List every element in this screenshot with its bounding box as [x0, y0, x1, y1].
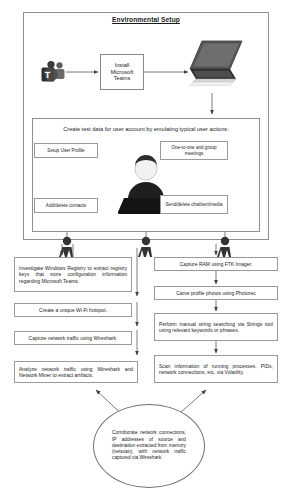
laptop-icon [186, 38, 246, 93]
step-box-capture-ram: Capture RAM using FTK Imager. [154, 257, 278, 271]
page-title: Environmental Setup [23, 16, 269, 23]
step-box-scan-running-processes: Scan information of running processes, P… [154, 355, 278, 383]
conclusion-label: Corroborate network connections, IP addr… [94, 430, 204, 461]
action-box-add-delete-contacts: Add/delete contacts [34, 198, 98, 213]
step-box-analyze-network-traffic: Analyze network traffic using Wireshark … [14, 361, 138, 383]
action-box-send-delete-chat-text-media: Send/delete chat/text/media [160, 195, 228, 214]
install-microsoft-teams-box: Install Microsoft Teams [100, 54, 144, 90]
step-label: Create a unique Wi-Fi hotspot. [15, 306, 131, 314]
action-box-one-to-one-and-group-meetings: One-to-one and group meetings [160, 141, 228, 160]
step-box-create-wifi-hotspot: Create a unique Wi-Fi hotspot. [14, 303, 132, 317]
action-label: Add/delete contacts [35, 202, 97, 210]
action-box-setup-user-profile: Setup User Profile [34, 143, 98, 158]
branch-arrows-icon-row [28, 236, 264, 258]
step-label: Carve profile photos using Photorec [155, 289, 277, 297]
action-label: Setup User Profile [35, 147, 97, 155]
install-line-1: Install [111, 62, 134, 69]
step-label: Capture network traffic using Wireshark. [15, 334, 131, 342]
step-label: Analyze network traffic using Wireshark … [15, 364, 137, 380]
step-label: Perform manual string searching via Stri… [155, 319, 277, 335]
flowchart-canvas: Environmental Setup T T Install Microsof… [0, 0, 292, 501]
test-data-caption: Create test data for user account by emu… [36, 126, 256, 132]
step-box-manual-string-searching: Perform manual string searching via Stri… [154, 313, 278, 341]
microsoft-teams-logo-icon: T T [40, 61, 66, 83]
step-box-capture-network-traffic: Capture network traffic using Wireshark. [14, 331, 132, 345]
step-box-investigate-windows-registry: Investigate Windows Registry to extract … [14, 257, 132, 292]
install-line-2: Microsoft [111, 69, 134, 76]
svg-text:T: T [45, 70, 51, 80]
conclusion-ellipse-corroborate: Corroborate network connections, IP addr… [93, 404, 205, 488]
step-label: Capture RAM using FTK Imager. [155, 260, 277, 268]
action-label: Send/delete chat/text/media [161, 201, 227, 209]
install-line-3: Teams [111, 75, 134, 82]
action-label: One-to-one and group meetings [161, 144, 227, 157]
step-label: Investigate Windows Registry to extract … [15, 263, 131, 285]
step-box-carve-profile-photos: Carve profile photos using Photorec [154, 286, 278, 300]
step-label: Scan information of running processes, P… [155, 361, 277, 377]
